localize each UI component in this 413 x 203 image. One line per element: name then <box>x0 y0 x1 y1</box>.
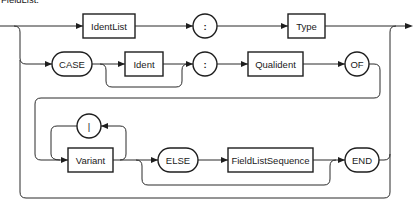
identlist-label: IdentList <box>91 21 127 32</box>
diagram-title: FieldList: <box>1 0 39 5</box>
of-label: OF <box>350 59 363 70</box>
qualident-label: Qualident <box>255 59 296 70</box>
else-label: ELSE <box>166 155 190 166</box>
bar-label: | <box>88 121 90 132</box>
case-label: CASE <box>59 59 85 70</box>
colon-label-2: : <box>203 59 206 70</box>
ident-label: Ident <box>133 59 154 70</box>
exit-arrow <box>405 23 413 29</box>
colon-label-1: : <box>203 21 206 32</box>
row-2: CASE Ident : Qualident OF <box>35 52 380 160</box>
variant-label: Variant <box>76 155 106 166</box>
syntax-diagram: FieldList: IdentList : Type CASE Ident <box>0 0 413 203</box>
row-3: | Variant ELSE FieldListSequence END <box>51 114 390 185</box>
fieldlistsequence-label: FieldListSequence <box>231 155 309 166</box>
row-1: IdentList : Type <box>76 14 413 38</box>
entry-lines <box>0 26 396 198</box>
end-label: END <box>352 155 372 166</box>
type-label: Type <box>296 21 317 32</box>
